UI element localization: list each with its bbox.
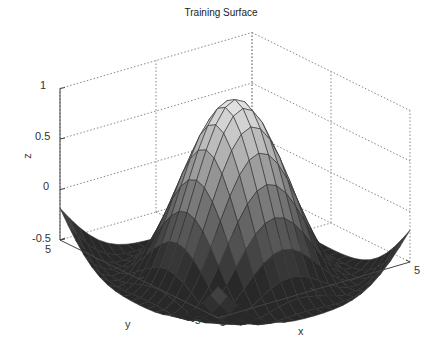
- y-tick-0: 0: [119, 280, 125, 292]
- y-tick-5: 5: [45, 243, 51, 255]
- y-tick-neg-5: -5: [191, 314, 201, 326]
- z-tick-1: 1: [40, 79, 46, 91]
- x-tick-neg-5: -5: [216, 316, 226, 328]
- z-axis-label: z: [21, 153, 33, 159]
- z-tick-0: 0: [43, 180, 49, 192]
- x-tick-5: 5: [414, 264, 420, 276]
- x-axis-label: x: [298, 325, 304, 337]
- z-tick-0-5: 0.5: [35, 130, 50, 142]
- surface-plot: [0, 0, 442, 354]
- x-tick-0: 0: [315, 289, 321, 301]
- y-axis-label: y: [125, 318, 131, 330]
